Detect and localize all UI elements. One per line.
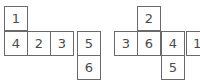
net-cell: 6 [77, 55, 101, 80]
net-cell: 5 [161, 55, 185, 80]
net-cell: 5 [77, 31, 101, 56]
net-cell: 1 [4, 6, 28, 31]
net-cell: 2 [137, 6, 161, 31]
net-cell: 4 [4, 31, 28, 56]
net-cell: 2 [27, 31, 51, 56]
net-cell: 3 [114, 31, 138, 56]
net-cell: 3 [50, 31, 74, 56]
net-cell: 4 [161, 31, 185, 56]
net-cell: 6 [137, 31, 161, 56]
net-cell: 1 [186, 31, 200, 56]
